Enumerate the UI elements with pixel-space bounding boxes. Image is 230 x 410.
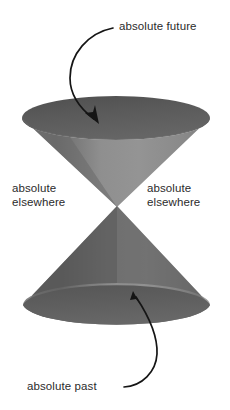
upper-cone-inner-surface: [22, 96, 210, 140]
label-absolute-future-text: absolute future: [119, 20, 197, 34]
label-elsewhere-right-line2: elsewhere: [147, 196, 200, 210]
label-elsewhere-left-line2: elsewhere: [12, 196, 65, 210]
label-elsewhere-left-line1: absolute: [12, 182, 65, 196]
label-elsewhere-right-line1: absolute: [147, 182, 200, 196]
label-absolute-elsewhere-right: absolute elsewhere: [147, 182, 200, 209]
lower-cone-absolute-past: [23, 206, 210, 325]
label-absolute-past-text: absolute past: [27, 380, 97, 394]
label-absolute-past: absolute past: [27, 380, 97, 394]
label-absolute-elsewhere-left: absolute elsewhere: [12, 182, 65, 209]
label-absolute-future: absolute future: [119, 20, 197, 34]
